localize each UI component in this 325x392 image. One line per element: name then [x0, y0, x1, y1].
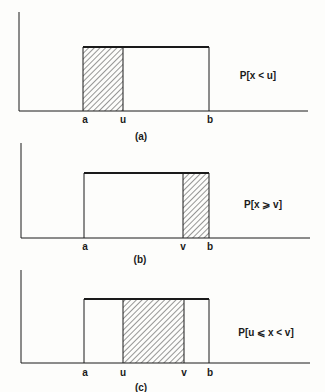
panel-caption: (b): [134, 254, 147, 265]
tick-label-a: a: [82, 367, 88, 378]
tick-label-a: a: [82, 114, 88, 125]
tick-label-v: v: [181, 367, 187, 378]
shaded-region: [83, 47, 123, 111]
probability-label: P[x ⩾ v]: [244, 199, 282, 210]
tick-label-u: u: [120, 367, 126, 378]
panel-c: a u v b (c) P[u ⩽ x < v]: [21, 270, 310, 392]
tick-label-b: b: [207, 367, 213, 378]
panel-caption: (a): [135, 131, 147, 142]
tick-label-b: b: [207, 114, 213, 125]
tick-label-v: v: [180, 241, 186, 252]
probability-label: P[u ⩽ x < v]: [238, 327, 294, 338]
panel-b: a v b (b) P[x ⩾ v]: [21, 143, 310, 265]
tick-label-u: u: [120, 114, 126, 125]
tick-label-b: b: [207, 241, 213, 252]
probability-label: P[x < u]: [240, 70, 276, 81]
tick-label-a: a: [82, 241, 88, 252]
panel-caption: (c): [135, 382, 147, 392]
uniform-distribution-figure: a u b (a) P[x < u] a v b (b) P[x ⩾ v] a …: [0, 0, 325, 392]
shaded-region: [183, 173, 209, 238]
shaded-region: [123, 299, 184, 363]
panel-a: a u b (a) P[x < u]: [19, 12, 308, 142]
